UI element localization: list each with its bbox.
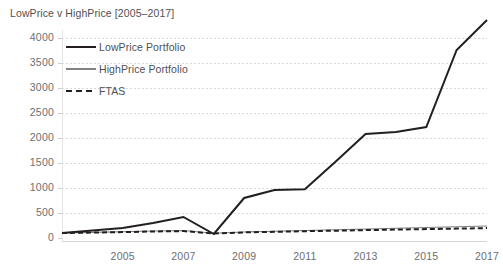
y-tick-label: 2000 xyxy=(10,131,54,143)
x-tick-label: 2017 xyxy=(457,250,503,262)
y-tick-label: 500 xyxy=(10,206,54,218)
y-tick-label: 0 xyxy=(10,231,54,243)
y-tick-label: 3000 xyxy=(10,81,54,93)
y-tick-label: 1500 xyxy=(10,156,54,168)
x-tick-label: 2005 xyxy=(93,250,153,262)
x-tick-label: 2013 xyxy=(336,250,396,262)
legend-line-swatch xyxy=(66,64,96,74)
legend-item[interactable]: FTAS xyxy=(66,84,125,98)
legend-label: HighPrice Portfolio xyxy=(99,63,188,75)
legend-item[interactable]: HighPrice Portfolio xyxy=(66,62,188,76)
legend-label: FTAS xyxy=(99,85,125,97)
x-tick-label: 2011 xyxy=(275,250,335,262)
legend-item[interactable]: LowPrice Portfolio xyxy=(66,40,185,54)
series-line-ftas xyxy=(62,228,487,233)
legend-line-swatch xyxy=(66,42,96,52)
y-tick-label: 2500 xyxy=(10,106,54,118)
legend-label: LowPrice Portfolio xyxy=(99,41,185,53)
y-tick-label: 1000 xyxy=(10,181,54,193)
y-tick-label: 4000 xyxy=(10,31,54,43)
x-tick-label: 2009 xyxy=(214,250,274,262)
y-tick-label: 3500 xyxy=(10,56,54,68)
legend-line-swatch xyxy=(66,86,96,96)
x-tick-label: 2007 xyxy=(153,250,213,262)
x-tick-label: 2015 xyxy=(396,250,456,262)
